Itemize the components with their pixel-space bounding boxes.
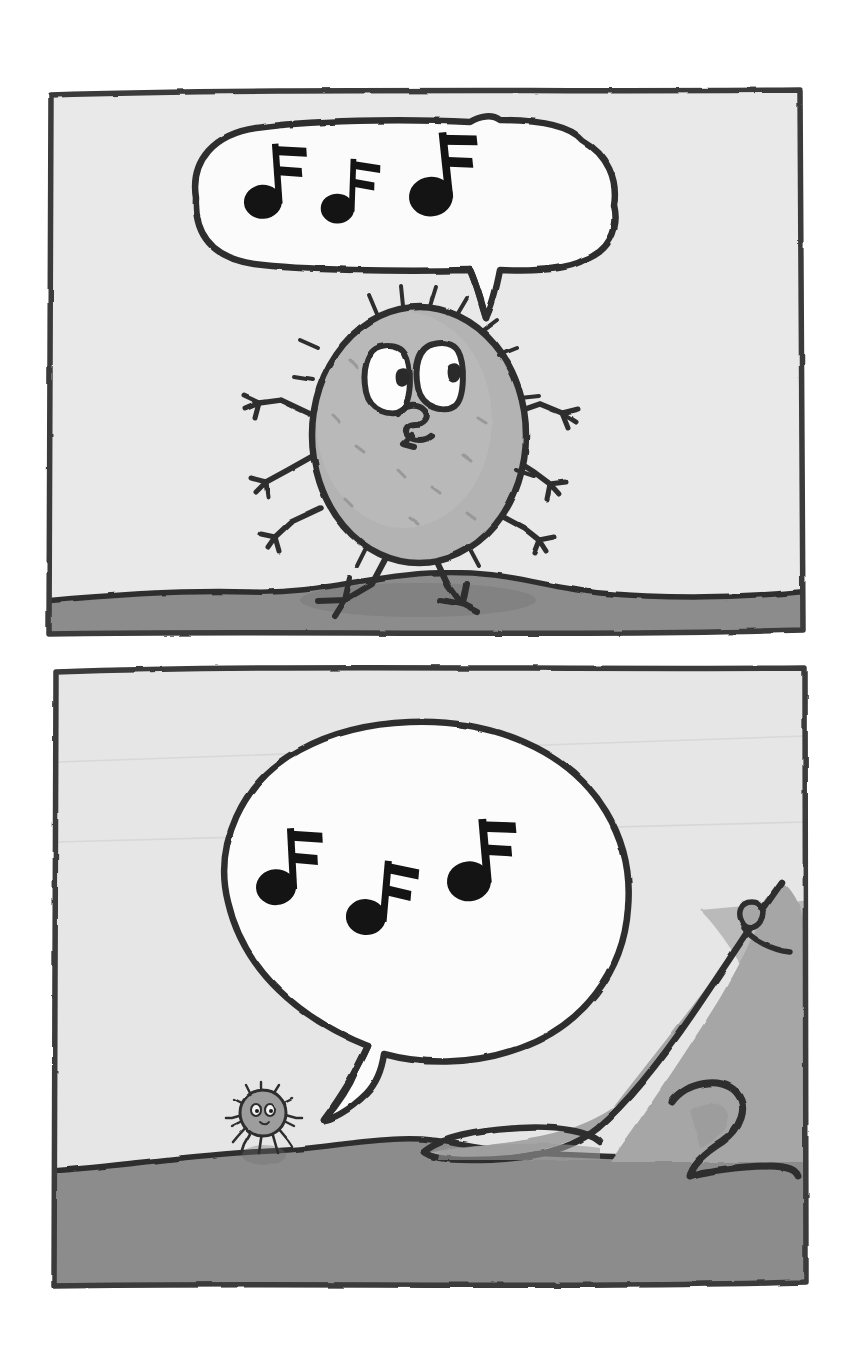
comic-strip: Hand-drawn two-panel comic strip Panel 1… <box>0 0 862 1353</box>
panel-1 <box>0 0 862 650</box>
panel-2 <box>0 650 862 1300</box>
tiny-creature-cast-shadow <box>242 1145 286 1165</box>
panel-1-canvas <box>0 0 862 650</box>
panel-2-canvas <box>0 650 862 1310</box>
